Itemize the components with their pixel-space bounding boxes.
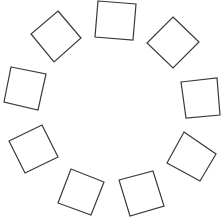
square-ring-diagram xyxy=(0,0,221,220)
square-top xyxy=(95,1,136,40)
square-right xyxy=(181,78,220,118)
square-left xyxy=(4,67,46,110)
